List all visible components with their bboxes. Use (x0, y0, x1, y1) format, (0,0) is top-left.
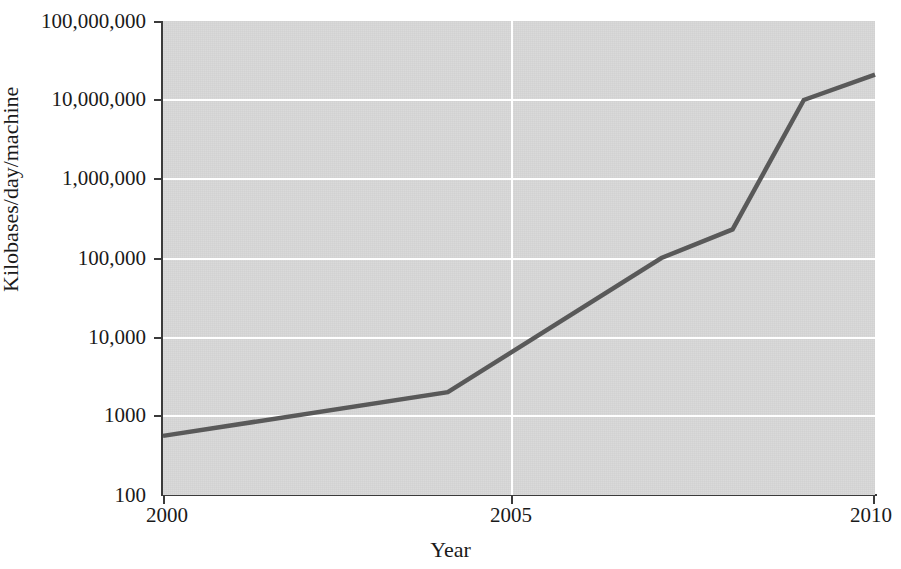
y-axis-tick (154, 99, 163, 101)
y-tick-label: 100 (115, 483, 147, 508)
y-axis-tick (154, 415, 163, 417)
x-axis-tick (873, 495, 875, 504)
y-tick-label: 1000 (104, 403, 146, 428)
x-axis-title: Year (0, 537, 901, 563)
y-tick-label: 100,000 (78, 246, 146, 271)
x-tick-label: 2010 (850, 503, 892, 528)
y-axis-tick (154, 258, 163, 260)
y-tick-label: 100,000,000 (41, 9, 146, 34)
x-tick-label: 2005 (490, 503, 532, 528)
chart-figure: Kilobases/day/machine 100 1000 10,000 10… (0, 0, 901, 569)
x-tick-label: 2000 (146, 503, 188, 528)
y-axis-title: Kilobases/day/machine (0, 87, 24, 292)
x-axis-tick (511, 495, 513, 504)
y-axis-tick (154, 21, 163, 23)
y-tick-label: 10,000 (88, 325, 146, 350)
series-polyline (163, 75, 875, 436)
plot-area (163, 21, 875, 495)
y-axis-tick (154, 178, 163, 180)
y-tick-label: 10,000,000 (52, 87, 147, 112)
data-series-line (163, 21, 875, 495)
y-axis-tick (154, 337, 163, 339)
x-axis-tick (163, 495, 165, 504)
y-tick-label: 1,000,000 (62, 166, 146, 191)
